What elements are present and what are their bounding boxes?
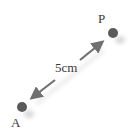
arrow-shadow <box>36 50 104 104</box>
point-a <box>17 102 27 112</box>
point-a-label: A <box>11 116 20 129</box>
point-a-shadow <box>24 110 34 118</box>
arrow-head-p <box>80 43 101 60</box>
point-p-label: P <box>98 12 105 25</box>
distance-label: 5cm <box>55 61 77 74</box>
point-p-shadow <box>115 36 125 44</box>
arrow-head-a <box>33 80 55 97</box>
point-p <box>108 28 118 38</box>
